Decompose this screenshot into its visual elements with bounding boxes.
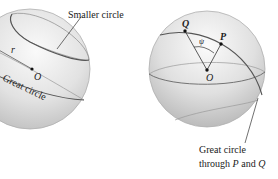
point-q-label: Q <box>182 18 189 29</box>
spheres-figure: r O Smaller circle Great circle <box>0 0 278 179</box>
center-label-o: O <box>206 72 213 83</box>
point-p <box>219 42 222 45</box>
caption-p: P <box>232 158 239 169</box>
caption-and: and <box>239 158 258 169</box>
center-label-o: O <box>34 71 41 82</box>
caption-q: Q <box>258 158 266 169</box>
radius-label: r <box>11 44 15 55</box>
point-p-label: P <box>220 31 227 42</box>
caption-line2: through P and Q <box>199 158 266 169</box>
right-sphere: Q P ψ O Great circle through P and Q <box>149 11 266 169</box>
figure-canvas: r O Smaller circle Great circle <box>0 0 278 179</box>
left-sphere: r O Smaller circle Great circle <box>0 9 124 129</box>
caption-through: through <box>199 158 233 169</box>
point-q <box>183 29 186 32</box>
smaller-circle-label: Smaller circle <box>68 9 124 20</box>
caption-line1: Great circle <box>199 144 246 155</box>
